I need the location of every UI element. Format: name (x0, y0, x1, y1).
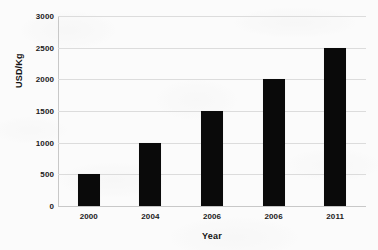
x-axis-tick-labels: 20002004200620062011 (58, 212, 366, 226)
bar (324, 48, 346, 206)
y-axis-tick-label: 1000 (8, 138, 54, 147)
y-axis-tick-label: 0 (8, 202, 54, 211)
y-axis-tick-labels: 050010001500200025003000 (4, 16, 54, 206)
x-axis-tick-label: 2011 (326, 212, 344, 221)
bar (201, 111, 223, 206)
gridline (58, 79, 366, 80)
x-axis-tick-label: 2004 (141, 212, 159, 221)
bar (78, 174, 100, 206)
y-axis-tick-label: 3000 (8, 12, 54, 21)
bar (263, 79, 285, 206)
gridline (58, 48, 366, 49)
x-axis-title: Year (58, 231, 366, 241)
plot-area (58, 16, 366, 206)
bar-chart-figure: 050010001500200025003000 USD/Kg 20002004… (0, 0, 378, 250)
bar (139, 143, 161, 206)
gridline (58, 16, 366, 17)
y-axis-tick-label: 500 (8, 170, 54, 179)
y-axis-tick-label: 1500 (8, 107, 54, 116)
y-axis-title: USD/Kg (14, 53, 24, 88)
x-axis-tick-label: 2006 (264, 212, 282, 221)
x-axis-tick-label: 2006 (203, 212, 221, 221)
x-axis-tick-label: 2000 (80, 212, 98, 221)
y-axis-tick-label: 2500 (8, 43, 54, 52)
gridline (58, 206, 366, 207)
